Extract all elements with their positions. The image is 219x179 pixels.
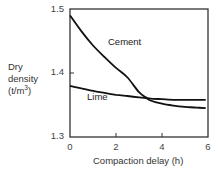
x-tick-label: 0 [63, 141, 77, 152]
y-axis-label-line-1: Dry [8, 61, 38, 73]
y-tick-label: 1.3 [40, 130, 64, 141]
y-axis-label-line-3: (t/m3) [8, 85, 38, 97]
y-tick-label: 1.5 [40, 3, 64, 14]
x-axis-label: Compaction delay (h) [93, 155, 183, 166]
x-tick-label: 6 [201, 141, 215, 152]
axis-ticks [70, 73, 162, 137]
y-axis-label: Dry density (t/m3) [8, 61, 38, 97]
y-tick-label: 1.4 [40, 66, 64, 77]
cement-series-label: Cement [108, 36, 141, 47]
plot-frame [70, 9, 208, 137]
x-tick-label: 4 [155, 141, 169, 152]
lime-series-label: Lime [87, 91, 108, 102]
x-tick-label: 2 [109, 141, 123, 152]
